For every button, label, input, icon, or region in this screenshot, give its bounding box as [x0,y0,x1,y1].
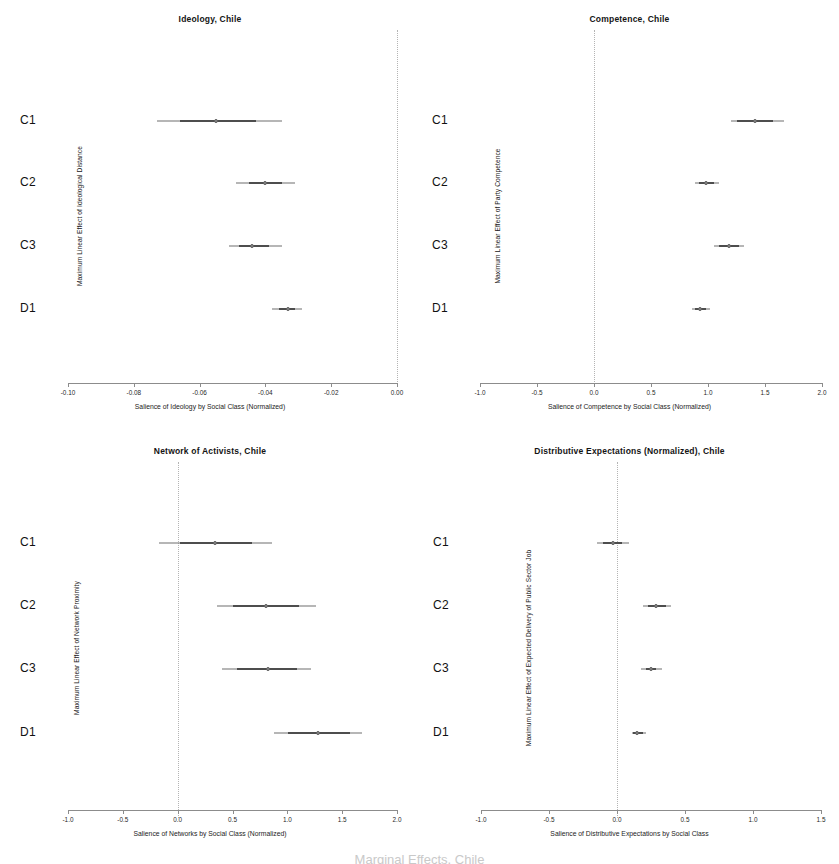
x-axis-tick [594,383,595,387]
x-axis-tick [822,383,823,387]
y-axis-label: Maximum Linear Effect of Expected Delive… [525,550,532,746]
x-axis-tick [265,383,266,387]
x-axis-tick-label: 1.5 [761,389,770,396]
x-axis-tick-label: 0.5 [647,389,656,396]
x-axis-tick-label: 0.5 [228,816,237,823]
panel-ideology-chile: Ideology, ChileMaximum Linear Effect of … [0,0,420,432]
x-axis-tick [200,383,201,387]
estimate-row [420,605,839,606]
point-estimate-marker [316,731,320,735]
panel-title: Distributive Expectations (Normalized), … [420,446,839,456]
zero-reference-line [178,462,179,818]
x-axis-tick [134,383,135,387]
x-axis-tick-label: 1.5 [817,816,826,823]
x-axis-tick-label: -1.0 [62,816,73,823]
point-estimate-marker [250,244,254,248]
x-axis-tick [287,810,288,814]
x-axis-tick [685,810,686,814]
y-axis-label: Maximum Linear Effect of Network Proximi… [73,581,80,715]
estimate-row [420,120,839,121]
estimate-row [0,732,420,733]
estimate-row [0,605,420,606]
figure-grid: Ideology, ChileMaximum Linear Effect of … [0,0,839,864]
x-axis-tick [68,383,69,387]
x-axis-tick [397,810,398,814]
x-axis-tick [708,383,709,387]
estimate-row [420,542,839,543]
x-axis-tick [481,810,482,814]
x-axis-tick-label: 0.0 [173,816,182,823]
x-axis-tick-label: -0.5 [531,389,542,396]
panel-title: Competence, Chile [420,14,839,24]
point-estimate-marker [649,667,653,671]
point-estimate-marker [704,181,708,185]
x-axis-tick [753,810,754,814]
x-axis-tick [342,810,343,814]
estimate-row [0,542,420,543]
x-axis-tick-label: -0.04 [258,389,273,396]
x-axis-label: Salience of Distributive Expectations by… [420,830,839,837]
x-axis-tick [123,810,124,814]
x-axis-tick [233,810,234,814]
x-axis-tick [480,383,481,387]
x-axis [481,810,821,811]
x-axis-tick [821,810,822,814]
point-estimate-marker [753,119,757,123]
y-axis-label: Maximum Linear Effect of Ideological Dis… [76,146,83,286]
x-axis-tick [178,810,179,814]
x-axis-tick [68,810,69,814]
panel-title: Network of Activists, Chile [0,446,420,456]
x-axis-tick-label: -1.0 [474,389,485,396]
point-estimate-marker [263,181,267,185]
x-axis-tick-label: 2.0 [818,389,827,396]
x-axis-tick-label: -0.02 [324,389,339,396]
x-axis-tick-label: 0.0 [590,389,599,396]
x-axis-tick [397,383,398,387]
estimate-row [420,308,839,309]
estimate-row [0,668,420,669]
point-estimate-marker [266,667,270,671]
point-estimate-marker [698,307,702,311]
x-axis-tick [331,383,332,387]
x-axis-tick-label: 1.0 [749,816,758,823]
point-estimate-marker [611,541,615,545]
estimate-row [420,732,839,733]
estimate-row [420,668,839,669]
point-estimate-marker [635,731,639,735]
x-axis-tick-label: -0.06 [192,389,207,396]
x-axis-tick-label: 0.5 [681,816,690,823]
x-axis-tick [537,383,538,387]
x-axis-tick-label: -1.0 [475,816,486,823]
x-axis-tick-label: -0.08 [127,389,142,396]
point-estimate-marker [214,119,218,123]
x-axis [68,383,397,384]
panel-distributive-expectations-chile: Distributive Expectations (Normalized), … [420,432,839,864]
estimate-row [0,182,420,183]
x-axis-tick-label: 0.0 [613,816,622,823]
x-axis-tick-label: -0.5 [543,816,554,823]
panel-title: Ideology, Chile [0,14,420,24]
panel-network-of-activists-chile: Network of Activists, ChileMaximum Linea… [0,432,420,864]
zero-reference-line [594,30,595,386]
x-axis-label: Salience of Networks by Social Class (No… [0,830,420,837]
x-axis-tick [549,810,550,814]
x-axis-tick-label: 1.5 [338,816,347,823]
panel-competence-chile: Competence, ChileMaximum Linear Effect o… [420,0,839,432]
x-axis-tick-label: 1.0 [283,816,292,823]
zero-reference-line [617,462,618,818]
estimate-row [0,245,420,246]
x-axis-tick-label: -0.10 [61,389,76,396]
x-axis-tick-label: 0.00 [391,389,403,396]
zero-reference-line [397,30,398,386]
estimate-row [0,120,420,121]
x-axis-tick-label: 2.0 [393,816,402,823]
x-axis-tick [765,383,766,387]
x-axis-tick [651,383,652,387]
point-estimate-marker [727,244,731,248]
x-axis-tick-label: 1.0 [704,389,713,396]
x-axis-tick-label: -0.5 [117,816,128,823]
point-estimate-marker [213,541,217,545]
estimate-row [420,182,839,183]
estimate-row [420,245,839,246]
figure-footnote: Marginal Effects, Chile [0,850,839,864]
